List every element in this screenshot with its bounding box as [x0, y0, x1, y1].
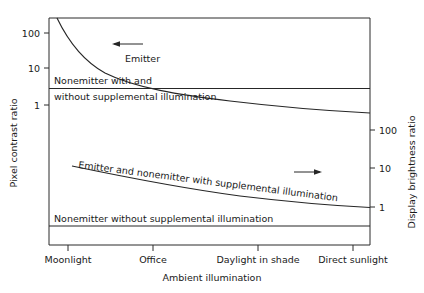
- x-tick-label-moonlight: Moonlight: [45, 254, 92, 265]
- right-axis-title: Display brightness ratio: [406, 115, 417, 228]
- chart-canvas: 100 10 1 Pixel contrast ratio 100 10 1 D…: [0, 0, 424, 293]
- right-axis-ticks: 100 10 1: [370, 125, 397, 213]
- left-tick-label-10: 10: [28, 63, 40, 74]
- curve-label-emitter-and-nonemitter-supplemental: Emitter and nonemitter with supplemental…: [78, 159, 339, 203]
- left-tick-label-1: 1: [34, 100, 40, 111]
- x-axis-ticks: Moonlight Office Daylight in shade Direc…: [45, 245, 388, 265]
- left-arrow-icon: [112, 41, 143, 47]
- chart-figure: 100 10 1 Pixel contrast ratio 100 10 1 D…: [0, 0, 424, 293]
- curve-label-nonemitter-both-line2: without supplemental illumination: [54, 91, 216, 102]
- plot-border: [49, 18, 370, 245]
- left-axis-ticks: 100 10 1: [22, 28, 49, 111]
- curve-label-nonemitter-both-line1: Nonemitter with and: [54, 75, 152, 86]
- curve-label-emitter: Emitter: [125, 53, 160, 64]
- left-axis-title: Pixel contrast ratio: [8, 98, 19, 187]
- right-arrow-icon: [294, 169, 322, 175]
- right-tick-label-100: 100: [379, 125, 397, 136]
- x-axis-title: Ambient illumination: [163, 272, 262, 283]
- right-tick-label-10: 10: [379, 163, 391, 174]
- x-tick-label-office: Office: [139, 254, 167, 265]
- curve-labels: Emitter Nonemitter with and without supp…: [54, 53, 339, 224]
- plot-frame: [49, 18, 370, 245]
- right-tick-label-1: 1: [379, 202, 385, 213]
- curve-label-nonemitter-without-supplemental: Nonemitter without supplemental illumina…: [54, 213, 273, 224]
- x-tick-label-daylight-in-shade: Daylight in shade: [216, 254, 299, 265]
- left-tick-label-100: 100: [22, 28, 40, 39]
- x-tick-label-direct-sunlight: Direct sunlight: [318, 254, 388, 265]
